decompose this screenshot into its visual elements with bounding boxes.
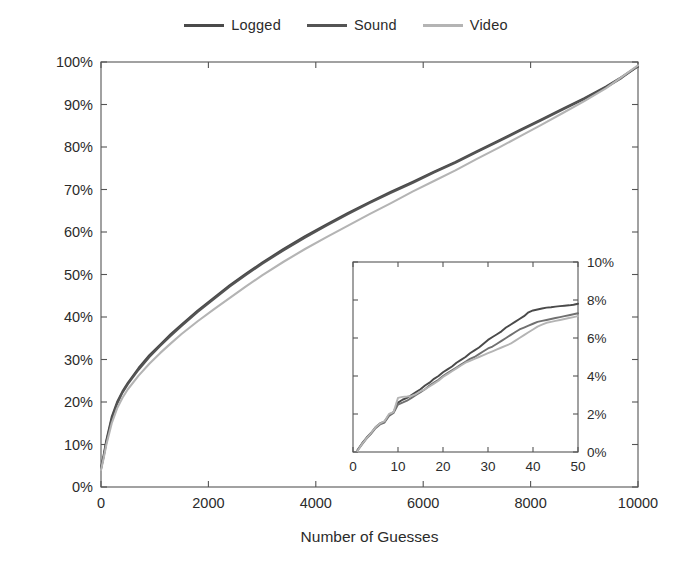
y-tick-label-inset: 6% — [587, 331, 635, 346]
x-tick-label-main: 2000 — [192, 495, 224, 511]
y-tick-label-main: 90% — [41, 97, 93, 113]
y-tick-label-main: 50% — [41, 267, 93, 283]
x-tick-label-main: 6000 — [407, 495, 439, 511]
x-tick-label-main: 8000 — [514, 495, 546, 511]
x-tick-label-inset: 10 — [390, 459, 405, 474]
plot-canvas — [0, 0, 692, 571]
y-tick-label-main: 80% — [41, 139, 93, 155]
x-tick-label-inset: 0 — [349, 459, 357, 474]
y-tick-label-main: 60% — [41, 224, 93, 240]
y-tick-label-inset: 0% — [587, 445, 635, 460]
y-tick-label-main: 30% — [41, 352, 93, 368]
y-tick-label-main: 10% — [41, 437, 93, 453]
y-tick-label-main: 70% — [41, 182, 93, 198]
y-tick-label-main: 40% — [41, 309, 93, 325]
x-tick-label-main: 4000 — [300, 495, 332, 511]
x-tick-label-inset: 30 — [480, 459, 495, 474]
x-tick-label-main: 10000 — [618, 495, 658, 511]
x-tick-label-main: 0 — [97, 495, 105, 511]
y-tick-label-main: 0% — [41, 479, 93, 495]
y-tick-label-main: 100% — [41, 54, 93, 70]
y-tick-label-inset: 2% — [587, 407, 635, 422]
x-tick-label-inset: 40 — [525, 459, 540, 474]
y-tick-label-main: 20% — [41, 394, 93, 410]
figure-container: Logged Sound Video PINs Recovered Number… — [0, 0, 692, 571]
y-tick-label-inset: 10% — [587, 255, 635, 270]
y-tick-label-inset: 8% — [587, 293, 635, 308]
y-tick-label-inset: 4% — [587, 369, 635, 384]
x-tick-label-inset: 50 — [570, 459, 585, 474]
x-tick-label-inset: 20 — [435, 459, 450, 474]
